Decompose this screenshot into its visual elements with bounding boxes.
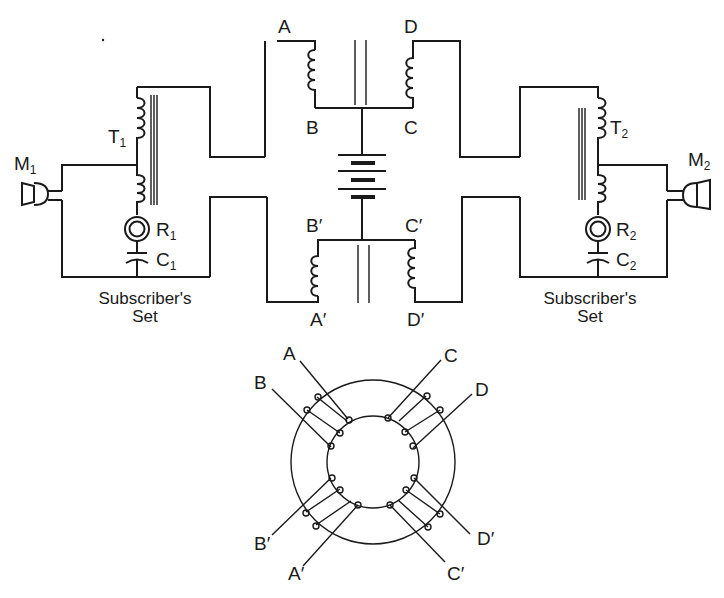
- label-a: A: [278, 16, 291, 37]
- label-c1: C1: [156, 249, 177, 273]
- caption-left-line2: Set: [132, 307, 158, 326]
- label-b-prime: B′: [306, 215, 323, 236]
- toroid-label-c-prime: C′: [447, 563, 465, 584]
- wire: [598, 165, 667, 191]
- label-m2: M2: [688, 149, 711, 173]
- coil-a-b-icon: [308, 50, 315, 108]
- right-subscriber-set: T2 M2 R2 C2 Subscriber's Set: [520, 87, 711, 326]
- caption-left-line1: Subscriber's: [98, 289, 191, 308]
- receiver-r1-icon: [125, 217, 149, 241]
- toroid-label-d-prime: D′: [477, 528, 495, 549]
- label-b: B: [306, 117, 319, 138]
- transformer-t2-upper-coil-icon: [598, 98, 606, 165]
- label-d: D: [404, 16, 418, 37]
- wire: [62, 165, 137, 191]
- label-r1: R1: [156, 219, 177, 243]
- coil-c-d-prime-icon: [408, 197, 520, 302]
- transformer-t1-core-icon: [151, 95, 157, 205]
- repeating-coil: A D B C B′ C′ A′ D′: [265, 16, 520, 330]
- receiver-r2-icon: [586, 217, 610, 241]
- winding-c-d-icon: [385, 360, 472, 449]
- microphone-m2-icon: [667, 180, 710, 209]
- label-m1: M1: [14, 153, 37, 177]
- winding-d-c-prime-icon: [387, 475, 470, 562]
- wire: [267, 197, 318, 302]
- label-c: C: [404, 117, 418, 138]
- upper-core-icon: [355, 40, 366, 105]
- label-a-prime: A′: [310, 309, 327, 330]
- label-t2: T2: [610, 117, 629, 141]
- wire: [277, 41, 315, 50]
- circuit-diagram: M1 T1 R1 C1 Subscriber's Set: [0, 0, 724, 598]
- toroid-outer-ring: [291, 380, 455, 544]
- wire: [520, 87, 598, 157]
- label-c-prime: C′: [405, 215, 423, 236]
- winding-a-b-icon: [272, 361, 352, 449]
- label-d-prime: D′: [407, 309, 425, 330]
- toroid-label-a-prime: A′: [288, 563, 305, 584]
- wire: [210, 197, 267, 277]
- toroid-label-b-prime: B′: [254, 533, 271, 554]
- toroid-label-a: A: [283, 343, 296, 364]
- coil-b-a-prime-icon: [311, 240, 415, 296]
- wire: [137, 87, 265, 157]
- toroid-label-c: C: [444, 345, 458, 366]
- toroid-label-d: D: [475, 379, 489, 400]
- label-c2: C2: [616, 249, 637, 273]
- left-subscriber-set: M1 T1 R1 C1 Subscriber's Set: [14, 87, 267, 326]
- microphone-m1-icon: [22, 183, 62, 205]
- caption-right-line2: Set: [577, 307, 603, 326]
- toroid-label-b: B: [254, 372, 267, 393]
- stray-mark: [102, 39, 104, 41]
- coil-d-c-icon: [406, 41, 520, 157]
- transformer-t2-lower-coil-icon: [598, 165, 606, 215]
- label-r2: R2: [616, 219, 637, 243]
- wire: [520, 197, 667, 277]
- battery-icon: [338, 155, 386, 197]
- transformer-t1-lower-coil-icon: [137, 165, 145, 215]
- lower-core-icon: [358, 245, 369, 303]
- toroidal-coil: A B C D B′ A′ D′ C′: [254, 343, 495, 584]
- caption-right-line1: Subscriber's: [543, 289, 636, 308]
- transformer-t1-upper-coil-icon: [137, 98, 145, 165]
- label-t1: T1: [108, 126, 127, 150]
- transformer-t2-core-icon: [579, 108, 585, 200]
